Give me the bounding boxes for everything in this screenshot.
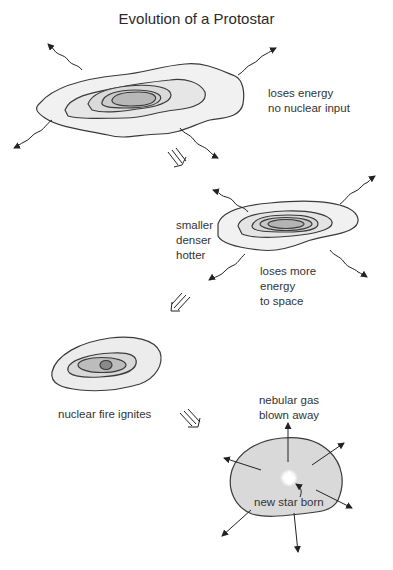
outflow-arrow-icon — [222, 510, 251, 536]
outflow-arrow-icon — [294, 513, 298, 552]
stage-2-cloud — [218, 201, 358, 250]
stage-3-label: nuclear fire ignites — [58, 407, 151, 422]
stage-4-center-label: new star born — [254, 495, 324, 510]
energy-ray-icon — [238, 48, 276, 75]
stage-1-cloud — [37, 64, 244, 137]
progression-arrow-2 — [171, 293, 190, 311]
stage-2-below-label: loses more energy to space — [260, 264, 316, 309]
diagram-canvas: Evolution of a Protostar — [0, 0, 393, 570]
stage-2-core — [268, 220, 304, 229]
energy-ray-icon — [48, 44, 82, 70]
energy-ray-icon — [14, 120, 52, 148]
stage-3-cloud — [52, 337, 161, 391]
stage-2-left-label: smaller denser hotter — [176, 218, 213, 263]
stage-1-label: loses energy no nuclear input — [268, 86, 350, 116]
energy-ray-icon — [330, 250, 367, 277]
stage-3-core — [100, 361, 112, 370]
progression-arrow-1 — [168, 148, 186, 167]
stage-1-core — [112, 92, 156, 106]
energy-ray-icon — [209, 254, 245, 280]
stage-4-top-label: nebular gas blown away — [254, 393, 324, 423]
progression-arrow-3 — [180, 409, 200, 427]
energy-ray-icon — [340, 176, 375, 204]
energy-ray-icon — [180, 128, 218, 158]
